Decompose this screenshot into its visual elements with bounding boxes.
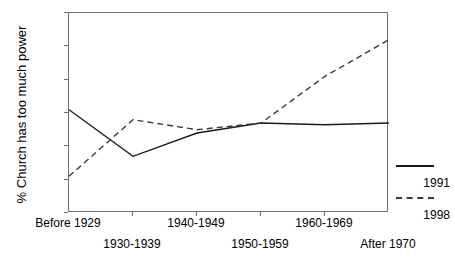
series-line-1998 [69,40,389,177]
legend-solid-line-icon [396,165,434,167]
legend-key-1991 [396,158,455,176]
series-lines [69,13,389,213]
legend-label-1991: 1991 [396,176,452,190]
y-tick-mark [64,212,68,213]
plot-area [68,12,388,212]
legend-key-1998 [396,190,455,208]
x-tick-label: After 1970 [343,238,433,251]
x-tick-label: 1930-1939 [87,238,177,251]
x-tick-label: 1940-1949 [151,217,241,230]
legend-label-1998: 1998 [396,208,452,222]
x-tick-mark [132,212,133,216]
legend: 1991 1998 [396,158,455,222]
x-tick-mark [196,212,197,216]
x-tick-label: 1950-1959 [215,238,305,251]
x-tick-mark [260,212,261,216]
x-tick-mark [324,212,325,216]
legend-dashed-line-icon [396,197,434,199]
x-tick-label: Before 1929 [23,217,113,230]
y-axis-title: % Church has too much power [14,10,29,220]
chart-root: % Church has too much power 20%30%40%50%… [0,0,455,269]
x-tick-label: 1960-1969 [279,217,369,230]
